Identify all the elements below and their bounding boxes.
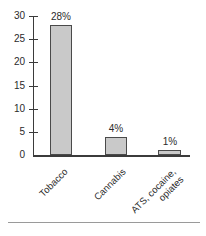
y-tick-label-5: 5: [0, 127, 25, 137]
y-tick-label-30: 30: [0, 11, 25, 21]
bar-value-tobacco: 28%: [46, 12, 76, 22]
bar-cannabis: [105, 137, 127, 155]
y-tick-label-10: 10: [0, 104, 25, 114]
x-category-label-tobacco: Tobacco: [31, 166, 70, 205]
x-axis-line: [33, 155, 190, 157]
plot-area: 30 25 20 15 10 5 0 28% 4% 1% Tobacco Can…: [0, 0, 206, 236]
y-tick-mark-15: [29, 86, 38, 87]
y-tick-mark-20: [29, 62, 38, 63]
y-tick-label-25: 25: [0, 34, 25, 44]
bar-value-cannabis: 4%: [101, 124, 131, 134]
bar-value-ats-cocaine-opiates: 1%: [155, 137, 185, 147]
y-tick-mark-25: [29, 39, 38, 40]
y-tick-mark-30: [29, 16, 38, 17]
bottom-divider: [8, 222, 200, 223]
x-category-label-cannabis: Cannabis: [87, 166, 127, 206]
bar-tobacco: [50, 25, 72, 155]
x-category-label-ats-cocaine-opiates: ATS, cocaine, opiates: [126, 166, 185, 225]
y-tick-mark-5: [29, 132, 38, 133]
y-tick-label-15: 15: [0, 81, 25, 91]
y-tick-mark-10: [29, 109, 38, 110]
bar-chart-figure: 30 25 20 15 10 5 0 28% 4% 1% Tobacco Can…: [0, 0, 206, 236]
bar-ats-cocaine-opiates: [158, 150, 181, 155]
y-tick-label-0: 0: [0, 150, 25, 160]
y-tick-label-20: 20: [0, 57, 25, 67]
